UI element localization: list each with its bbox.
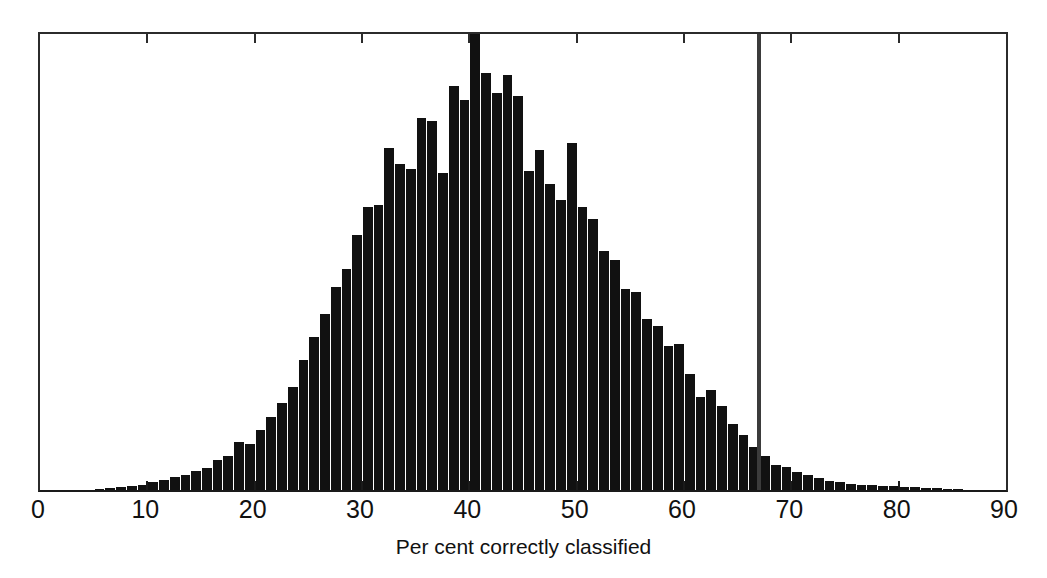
histogram-bar: [426, 121, 437, 490]
histogram-bar: [544, 184, 555, 490]
histogram-bar: [180, 475, 191, 490]
histogram-bar: [566, 143, 577, 490]
x-tick-bottom: [146, 481, 148, 490]
histogram-bar: [663, 346, 674, 490]
histogram-bar: [716, 406, 727, 490]
histogram-bar: [609, 260, 620, 490]
histogram-bar: [158, 480, 169, 490]
histogram-bar: [233, 442, 244, 490]
histogram-bar: [587, 219, 598, 490]
x-tick-label: 70: [775, 497, 803, 522]
x-tick-bottom: [361, 481, 363, 490]
histogram-bar: [437, 173, 448, 490]
histogram-bar: [351, 235, 362, 490]
histogram-bar: [459, 100, 470, 490]
x-tick-bottom: [790, 481, 792, 490]
x-tick-top: [683, 34, 685, 43]
histogram-bar: [469, 34, 480, 490]
histogram-bar: [383, 148, 394, 490]
histogram-bar: [705, 390, 716, 490]
histogram-bar: [770, 465, 781, 490]
histogram-bar: [212, 460, 223, 490]
x-tick-top: [361, 34, 363, 43]
histogram-figure: 0102030405060708090 Per cent correctly c…: [0, 0, 1047, 578]
histogram-bar: [190, 471, 201, 490]
histogram-bar: [405, 169, 416, 490]
histogram-bar: [802, 475, 813, 490]
x-tick-label: 90: [990, 497, 1018, 522]
x-tick-label: 80: [883, 497, 911, 522]
histogram-bar: [298, 360, 309, 490]
histogram-bar: [416, 118, 427, 490]
histogram-bar: [330, 287, 341, 490]
histogram-bar: [920, 488, 931, 490]
histogram-bar: [641, 319, 652, 490]
histogram-bar: [791, 472, 802, 490]
x-tick-bottom: [254, 481, 256, 490]
histogram-bar: [287, 387, 298, 490]
histogram-bar: [630, 292, 641, 490]
x-tick-bottom: [468, 481, 470, 490]
histogram-bar: [942, 489, 953, 490]
x-tick-top: [146, 34, 148, 43]
histogram-bar: [620, 289, 631, 490]
histogram-bar: [255, 430, 266, 490]
histogram-bar: [94, 489, 105, 490]
x-tick-top: [790, 34, 792, 43]
histogram-bar: [673, 344, 684, 490]
histogram-bar: [276, 403, 287, 490]
x-tick-label: 40: [453, 497, 481, 522]
x-tick-top: [898, 34, 900, 43]
histogram-bar: [362, 207, 373, 490]
histogram-bar: [480, 73, 491, 490]
histogram-bar: [866, 485, 877, 490]
x-tick-label: 0: [31, 497, 45, 522]
x-tick-label: 50: [561, 497, 589, 522]
histogram-bar: [201, 468, 212, 490]
histogram-bar: [909, 487, 920, 490]
histogram-bar: [147, 482, 158, 490]
histogram-bar: [845, 484, 856, 490]
histogram-bar: [598, 251, 609, 490]
histogram-bar: [104, 488, 115, 490]
x-tick-top: [468, 34, 470, 43]
histogram-bar: [341, 269, 352, 490]
x-tick-label: 60: [668, 497, 696, 522]
histogram-bar: [319, 314, 330, 490]
histogram-bar: [169, 477, 180, 490]
histogram-bar: [877, 486, 888, 490]
histogram-bar: [534, 150, 545, 490]
histogram-bar: [834, 482, 845, 490]
x-tick-label: 10: [131, 497, 159, 522]
histogram-bar: [491, 93, 502, 490]
histogram-bar: [952, 489, 963, 490]
histogram-bar: [308, 337, 319, 490]
reference-line: [757, 34, 761, 490]
x-tick-label: 30: [346, 497, 374, 522]
histogram-bar: [373, 205, 384, 490]
histogram-bar: [931, 488, 942, 490]
histogram-bar: [727, 424, 738, 490]
x-tick-top: [254, 34, 256, 43]
histogram-bar: [695, 397, 706, 490]
histogram-bar: [856, 485, 867, 490]
histogram-bar: [652, 326, 663, 490]
histogram-bar: [394, 164, 405, 490]
histogram-bar: [555, 200, 566, 490]
histogram-bar: [115, 487, 126, 490]
x-axis-label: Per cent correctly classified: [0, 535, 1047, 559]
histogram-bar: [684, 374, 695, 490]
x-tick-bottom: [576, 481, 578, 490]
histogram-bar: [512, 96, 523, 490]
x-tick-top: [576, 34, 578, 43]
x-tick-bottom: [898, 481, 900, 490]
histogram-bar: [502, 75, 513, 490]
x-tick-label: 20: [239, 497, 267, 522]
histogram-bar: [126, 486, 137, 490]
histogram-bar: [813, 478, 824, 490]
histogram-bar: [448, 86, 459, 490]
histogram-bar: [265, 417, 276, 490]
plot-frame: [38, 32, 1008, 492]
histogram-bar: [222, 456, 233, 490]
histogram-bar: [577, 207, 588, 490]
